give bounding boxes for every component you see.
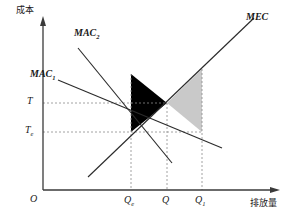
figure-canvas: 成本 排放量 O T Te Qe Q Q1 MAC2 MAC1 MEC bbox=[0, 0, 301, 223]
y-tick-label-tax-eff: Te bbox=[25, 125, 33, 138]
x-tick-label-q-eff: Qe bbox=[124, 195, 134, 208]
y-tick-label-tax-high: T bbox=[27, 96, 33, 109]
x-tick-text-q-mid: Q bbox=[162, 194, 169, 205]
y-axis-arrowhead bbox=[40, 16, 46, 26]
origin-label: O bbox=[30, 194, 37, 204]
curve-label-mac2: MAC2 bbox=[74, 28, 99, 41]
y-tick-text-tax-high: T bbox=[27, 95, 33, 106]
x-tick-sub-q-eff: e bbox=[131, 200, 134, 207]
curve-label-mac2-text: MAC bbox=[74, 27, 96, 38]
curve-label-mec: MEC bbox=[246, 12, 268, 25]
curve-mec bbox=[88, 18, 254, 177]
y-axis-title: 成本 bbox=[16, 6, 34, 15]
curve-label-mac1: MAC1 bbox=[30, 69, 55, 82]
y-tick-sub-tax-eff: e bbox=[31, 130, 34, 137]
gray-triangle-region bbox=[167, 69, 202, 132]
curve-label-mac2-sub: 2 bbox=[96, 33, 99, 40]
curve-label-mec-text: MEC bbox=[246, 11, 268, 22]
x-tick-label-q-high: Q1 bbox=[195, 195, 205, 208]
economics-diagram bbox=[0, 0, 301, 223]
x-tick-sub-q-high: 1 bbox=[202, 200, 205, 207]
x-axis-arrowhead bbox=[270, 187, 280, 193]
curve-label-mac1-text: MAC bbox=[30, 68, 52, 79]
curve-label-mac1-sub: 1 bbox=[52, 74, 55, 81]
x-tick-label-q-mid: Q bbox=[162, 195, 169, 208]
x-axis-title: 排放量 bbox=[250, 199, 277, 208]
